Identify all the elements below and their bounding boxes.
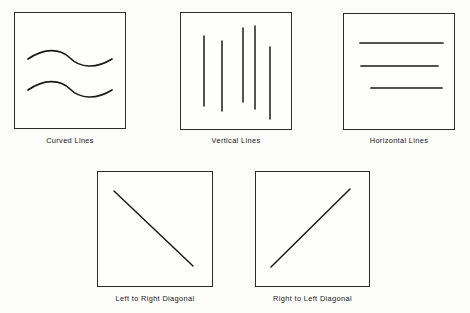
panel-vertical-lines: Vertical Lines — [180, 12, 292, 148]
stroke-diagonal-up — [271, 189, 350, 267]
artwork-vertical-lines — [180, 12, 292, 130]
panel-caption-left-to-right-diagonal: Left to Right Diagonal — [116, 294, 195, 303]
figure-sheet: Curved LinesVertical LinesHorizontal Lin… — [0, 0, 470, 313]
panel-left-to-right-diagonal: Left to Right Diagonal — [97, 171, 213, 306]
panel-caption-horizontal-lines: Horizontal Lines — [370, 136, 429, 145]
panel-caption-curved-lines: Curved Lines — [46, 136, 94, 145]
artwork-curved-lines — [14, 12, 126, 129]
artwork-right-to-left-diagonal — [255, 171, 370, 287]
panel-caption-vertical-lines: Vertical Lines — [212, 136, 261, 145]
stroke-lower-wave — [28, 82, 112, 97]
artwork-left-to-right-diagonal — [97, 171, 213, 287]
panel-horizontal-lines: Horizontal Lines — [343, 13, 455, 148]
panel-right-to-left-diagonal: Right to Left Diagonal — [255, 171, 370, 306]
stroke-diagonal-down — [114, 191, 193, 266]
panel-caption-right-to-left-diagonal: Right to Left Diagonal — [273, 294, 352, 303]
panel-curved-lines: Curved Lines — [14, 12, 126, 148]
stroke-upper-wave — [28, 51, 112, 66]
artwork-horizontal-lines — [343, 13, 455, 130]
